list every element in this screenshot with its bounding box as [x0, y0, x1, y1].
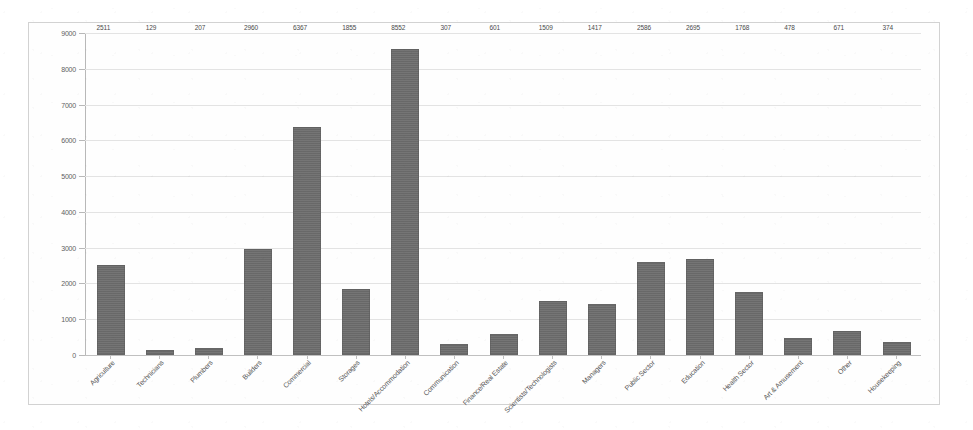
- x-axis-category-label: Housekeeping: [867, 359, 902, 394]
- bar[interactable]: 478: [784, 338, 812, 355]
- x-axis-label-slot: Commercial: [283, 355, 332, 405]
- x-axis-tick: [257, 355, 258, 359]
- x-axis-label-slot: Art & Amusement: [774, 355, 823, 405]
- y-axis-tick: [79, 248, 85, 249]
- bar[interactable]: 1768: [735, 292, 763, 355]
- x-axis-category-label: Education: [680, 359, 706, 385]
- x-axis-tick: [749, 355, 750, 359]
- y-axis-tick: [79, 140, 85, 141]
- bar-value-label: 6367: [293, 25, 307, 32]
- x-axis-tick: [405, 355, 406, 359]
- bar-slot: 374: [872, 33, 921, 355]
- x-axis-tick: [601, 355, 602, 359]
- bar[interactable]: 2586: [637, 262, 665, 355]
- y-axis-tick-label: 6000: [61, 137, 76, 144]
- x-axis-category-label: Finance/Real Estate: [461, 359, 509, 407]
- x-axis-category-label: Agriculture: [88, 359, 115, 386]
- y-axis-tick-label: 4000: [61, 208, 76, 215]
- bar-value-label: 307: [440, 25, 451, 32]
- bar-value-label: 478: [784, 25, 795, 32]
- x-axis-category-label: Art & Amusement: [762, 359, 804, 401]
- bar-slot: 2695: [676, 33, 725, 355]
- bar[interactable]: 671: [833, 331, 861, 355]
- bar-slot: 1417: [577, 33, 626, 355]
- bar-value-label: 8552: [391, 25, 405, 32]
- bar[interactable]: 601: [490, 334, 518, 356]
- x-axis-category-label: Other: [836, 359, 853, 376]
- bar-value-label: 1855: [342, 25, 356, 32]
- bar-slot: 307: [430, 33, 479, 355]
- y-axis-tick-label: 9000: [61, 30, 76, 37]
- x-axis-category-label: Commercial: [282, 359, 312, 389]
- y-axis-tick-label: 0: [72, 352, 76, 359]
- bar-slot: 207: [184, 33, 233, 355]
- x-axis-category-label: Technicians: [135, 359, 165, 389]
- x-axis-tick: [110, 355, 111, 359]
- bar[interactable]: 6367: [293, 127, 321, 355]
- bar[interactable]: 1509: [539, 301, 567, 355]
- bar-value-label: 1768: [735, 25, 749, 32]
- x-axis-label-slot: Education: [676, 355, 725, 405]
- x-axis-tick: [159, 355, 160, 359]
- x-axis-category-label: Health Sector: [721, 359, 755, 393]
- x-axis-tick: [307, 355, 308, 359]
- bar[interactable]: 2695: [686, 259, 714, 355]
- bar[interactable]: 2511: [97, 265, 125, 355]
- bar-value-label: 2695: [686, 25, 700, 32]
- bar-slot: 1768: [725, 33, 774, 355]
- x-axis-label-slot: Plumbers: [184, 355, 233, 405]
- bar-value-label: 129: [146, 25, 157, 32]
- x-axis-label-slot: Agriculture: [86, 355, 135, 405]
- y-axis-tick: [79, 33, 85, 34]
- y-axis-tick: [79, 283, 85, 284]
- bar-value-label: 671: [833, 25, 844, 32]
- x-axis-label-slot: Hotels/Accommodation: [381, 355, 430, 405]
- bar[interactable]: 8552: [391, 49, 419, 355]
- x-axis-label-slot: Housekeeping: [873, 355, 922, 405]
- bar-slot: 1855: [332, 33, 381, 355]
- bar-slot: 478: [774, 33, 823, 355]
- bar-value-label: 207: [195, 25, 206, 32]
- bar-value-label: 2960: [244, 25, 258, 32]
- bar-slot: 2511: [86, 33, 135, 355]
- bar-value-label: 1509: [539, 25, 553, 32]
- bar[interactable]: 1417: [588, 304, 616, 355]
- x-axis-category-label: Builders: [241, 359, 263, 381]
- x-axis-tick: [552, 355, 553, 359]
- plot-area: 0100020003000400050006000700080009000 25…: [85, 33, 921, 355]
- x-axis-category-label: Scientists/Technologists: [503, 359, 558, 414]
- bar-slot: 1509: [528, 33, 577, 355]
- bar-slot: 129: [135, 33, 184, 355]
- bar-value-label: 601: [490, 25, 501, 32]
- x-axis-label-slot: Builders: [234, 355, 283, 405]
- y-axis-tick-label: 1000: [61, 316, 76, 323]
- bar[interactable]: 307: [440, 344, 468, 355]
- x-axis-category-label: Plumbers: [189, 359, 214, 384]
- x-axis-label-slot: Communication: [430, 355, 479, 405]
- bar[interactable]: 207: [195, 348, 223, 355]
- x-axis-category-label: Managers: [581, 359, 607, 385]
- bar-slot: 6367: [283, 33, 332, 355]
- bar-value-label: 374: [883, 25, 894, 32]
- bar-series: 2511129207296063671855855230760115091417…: [86, 33, 921, 355]
- chart-frame: 0100020003000400050006000700080009000 25…: [28, 22, 940, 405]
- bar[interactable]: 374: [883, 342, 911, 355]
- x-axis-labels: AgricultureTechniciansPlumbersBuildersCo…: [86, 355, 922, 405]
- x-axis-tick: [454, 355, 455, 359]
- x-axis-tick: [847, 355, 848, 359]
- x-axis-category-label: Storages: [337, 359, 361, 383]
- bar-value-label: 2586: [637, 25, 651, 32]
- bar-slot: 8552: [381, 33, 430, 355]
- y-axis-tick-label: 3000: [61, 244, 76, 251]
- x-axis-label-slot: Other: [824, 355, 873, 405]
- bar[interactable]: 1855: [342, 289, 370, 355]
- x-axis-tick: [798, 355, 799, 359]
- bar[interactable]: 2960: [244, 249, 272, 355]
- x-axis-label-slot: Health Sector: [725, 355, 774, 405]
- bar-value-label: 1417: [588, 25, 602, 32]
- bar-slot: 671: [823, 33, 872, 355]
- bar-slot: 601: [479, 33, 528, 355]
- y-axis-tick: [79, 355, 85, 356]
- x-axis-tick: [896, 355, 897, 359]
- x-axis-label-slot: Storages: [332, 355, 381, 405]
